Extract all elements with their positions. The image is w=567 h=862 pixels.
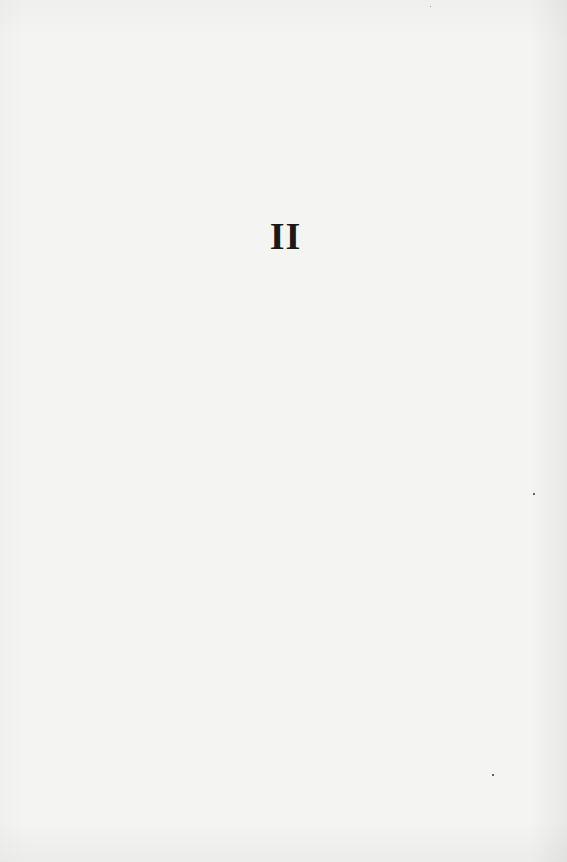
scan-speck [533,493,535,495]
scanned-page: II [0,0,567,862]
scan-speck [430,6,431,7]
scan-speck [492,774,494,776]
part-number-heading: II [0,214,567,258]
